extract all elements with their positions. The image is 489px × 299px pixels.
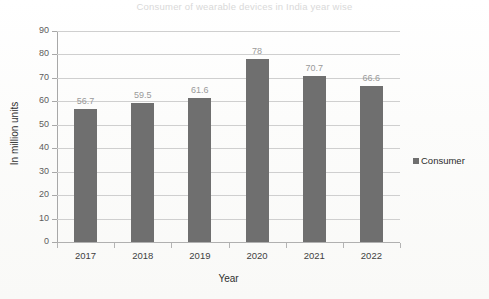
legend-label-consumer: Consumer xyxy=(421,155,465,166)
bar-group-2020[interactable]: 78 xyxy=(229,31,286,242)
bar-value-label-2021: 70.7 xyxy=(286,63,343,73)
chart-legend: Consumer xyxy=(413,155,465,166)
bar-value-label-2022: 66.6 xyxy=(343,73,400,83)
x-axis-tick xyxy=(343,243,344,248)
x-axis-tick-label-2019: 2019 xyxy=(171,250,228,261)
y-axis-tick xyxy=(52,54,57,55)
bar-2020[interactable] xyxy=(246,59,269,242)
y-axis-tick-label: 50 xyxy=(27,119,49,129)
x-axis-tick xyxy=(400,243,401,248)
bar-2017[interactable] xyxy=(74,109,97,242)
bar-2021[interactable] xyxy=(303,76,326,242)
y-axis-tick xyxy=(52,101,57,102)
y-axis-tick xyxy=(52,148,57,149)
y-axis-tick xyxy=(52,195,57,196)
y-axis-tick xyxy=(52,31,57,32)
x-axis-tick xyxy=(286,243,287,248)
x-axis-tick xyxy=(229,243,230,248)
bar-2018[interactable] xyxy=(131,103,154,242)
x-axis-tick xyxy=(57,243,58,248)
y-axis-tick xyxy=(52,78,57,79)
y-axis-title: In million units xyxy=(9,79,20,189)
y-axis-tick xyxy=(52,219,57,220)
bar-value-label-2019: 61.6 xyxy=(171,85,228,95)
bar-value-label-2020: 78 xyxy=(229,46,286,56)
y-axis-tick-label: 70 xyxy=(27,72,49,82)
bar-group-2021[interactable]: 70.7 xyxy=(286,31,343,242)
y-axis-tick-label: 40 xyxy=(27,142,49,152)
y-axis-tick-label: 30 xyxy=(27,166,49,176)
x-axis-tick-label-2018: 2018 xyxy=(114,250,171,261)
x-axis-tick-label-2021: 2021 xyxy=(286,250,343,261)
chart-title: Consumer of wearable devices in India ye… xyxy=(0,1,489,12)
y-axis-tick-label: 60 xyxy=(27,95,49,105)
chart-page: Consumer of wearable devices in India ye… xyxy=(0,0,489,299)
x-axis-tick xyxy=(114,243,115,248)
bar-group-2018[interactable]: 59.5 xyxy=(114,31,171,242)
x-axis-tick xyxy=(171,243,172,248)
y-axis-tick xyxy=(52,172,57,173)
bar-2022[interactable] xyxy=(360,86,383,242)
bar-group-2017[interactable]: 56.7 xyxy=(57,31,114,242)
bar-value-label-2018: 59.5 xyxy=(114,90,171,100)
bar-group-2022[interactable]: 66.6 xyxy=(343,31,400,242)
plot-area: 56.759.561.67870.766.6 xyxy=(57,31,400,242)
x-axis-title: Year xyxy=(57,273,400,284)
x-axis-tick-label-2022: 2022 xyxy=(343,250,400,261)
y-axis-tick-label: 10 xyxy=(27,213,49,223)
y-axis-tick-label: 0 xyxy=(27,236,49,246)
y-axis-tick-label: 90 xyxy=(27,25,49,35)
y-axis-tick-label: 20 xyxy=(27,189,49,199)
y-axis-tick-label: 80 xyxy=(27,48,49,58)
bar-value-label-2017: 56.7 xyxy=(57,96,114,106)
y-axis-tick xyxy=(52,125,57,126)
x-axis-tick-label-2020: 2020 xyxy=(229,250,286,261)
bar-2019[interactable] xyxy=(188,98,211,242)
legend-swatch-consumer xyxy=(413,158,419,164)
x-axis-tick-label-2017: 2017 xyxy=(57,250,114,261)
bar-group-2019[interactable]: 61.6 xyxy=(171,31,228,242)
